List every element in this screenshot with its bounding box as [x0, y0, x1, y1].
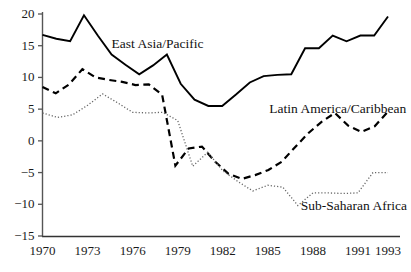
y-tick-label: −10 — [14, 196, 34, 212]
series-line-1 — [43, 15, 389, 106]
x-tick-label: 1991 — [345, 243, 371, 259]
x-tick-label: 1993 — [375, 243, 401, 259]
y-tick-label: 0 — [28, 133, 35, 149]
x-tick-label: 1985 — [255, 243, 281, 259]
y-tick-label: 5 — [28, 101, 35, 117]
line-chart: 20151050−5−10−15 19701973197619791982198… — [0, 0, 411, 272]
series-label-3: Sub-Saharan Africa — [301, 198, 407, 214]
x-tick-label: 1973 — [75, 243, 101, 259]
series-label-2: Latin America/Caribbean — [269, 101, 406, 117]
plot-area — [0, 0, 411, 272]
y-tick-label: −15 — [14, 228, 34, 244]
y-tick-label: −5 — [21, 165, 35, 181]
x-tick-label: 1976 — [120, 243, 146, 259]
y-tick-label: 20 — [22, 6, 35, 22]
series-label-1: East Asia/Pacific — [112, 36, 204, 52]
x-tick-label: 1970 — [30, 243, 56, 259]
x-tick-label: 1988 — [300, 243, 326, 259]
x-tick-label: 1982 — [210, 243, 236, 259]
y-tick-label: 10 — [22, 69, 35, 85]
x-tick-label: 1979 — [165, 243, 191, 259]
y-tick-label: 15 — [22, 38, 35, 54]
